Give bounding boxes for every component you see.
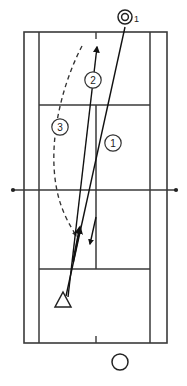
shot-label-2-text: 2 — [90, 75, 96, 86]
court-diagram-canvas: 1 2 3 1 — [0, 0, 187, 386]
partner-position-circle — [112, 354, 128, 370]
shot-path-1-arrowhead — [90, 217, 96, 244]
shot-label-3-text: 3 — [57, 122, 63, 133]
opponent-position-inner-circle — [122, 14, 129, 21]
net-post-right — [174, 188, 178, 192]
tennis-court-diagram: 1 2 3 1 — [0, 0, 187, 386]
opponent-position-outer-circle — [118, 10, 132, 24]
shot-label-1-text: 1 — [110, 138, 116, 149]
net-post-left — [11, 188, 15, 192]
shot-paths — [54, 27, 125, 297]
opponent-position-label: 1 — [134, 14, 139, 24]
